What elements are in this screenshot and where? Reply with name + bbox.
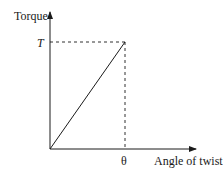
torque-twist-diagram bbox=[0, 0, 223, 180]
x-axis-label: Angle of twist bbox=[154, 155, 223, 167]
y-tick-label: T bbox=[37, 37, 44, 49]
x-tick-label: θ bbox=[121, 155, 127, 167]
y-axis-label: Torque bbox=[14, 10, 48, 22]
torque-twist-line bbox=[50, 42, 125, 149]
